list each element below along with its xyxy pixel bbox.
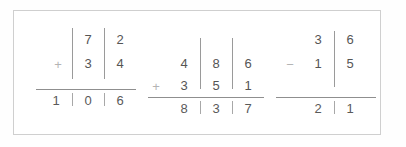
problem-1-addend-top-digit-1: 2 bbox=[113, 33, 127, 46]
place-value-separator-hundreds-tens bbox=[72, 28, 73, 79]
problem-1: 7 2 + 3 4 1 0 6 bbox=[28, 11, 144, 136]
problem-1-result-tick-0 bbox=[72, 93, 73, 106]
problem-1-operator-plus: + bbox=[52, 58, 64, 71]
problem-2-operator-plus: + bbox=[150, 80, 162, 93]
place-value-separator-tens-ones bbox=[104, 28, 105, 79]
problem-1-result-digit-2: 6 bbox=[113, 94, 127, 107]
problem-1-addend-bottom-digit-0: 3 bbox=[81, 57, 95, 70]
problem-2-addend-bottom-digit-1: 5 bbox=[209, 79, 223, 92]
place-value-separator-tens-ones bbox=[232, 38, 233, 89]
problem-2-addend-bottom-digit-2: 1 bbox=[241, 79, 255, 92]
problem-3-minuend-digit-1: 6 bbox=[343, 33, 357, 46]
problem-3-operator-minus: − bbox=[284, 58, 296, 71]
problem-3-subtrahend-digit-0: 1 bbox=[311, 57, 325, 70]
problem-3-subtrahend-digit-1: 5 bbox=[343, 57, 357, 70]
problem-3-answer-rule bbox=[276, 97, 376, 98]
problem-2-addend-top-digit-1: 8 bbox=[209, 57, 223, 70]
problem-1-addend-top-digit-0: 7 bbox=[81, 33, 95, 46]
problem-2-addend-bottom-digit-0: 3 bbox=[177, 79, 191, 92]
worksheet-canvas: 7 2 + 3 4 1 0 6 4 8 6 bbox=[0, 0, 406, 147]
problem-3-result-digit-0: 2 bbox=[311, 102, 325, 115]
problem-3-result-tick-0 bbox=[334, 101, 335, 114]
problem-2-result-tick-1 bbox=[232, 101, 233, 114]
place-value-separator-tens-ones bbox=[334, 31, 335, 87]
problem-2-result-digit-1: 3 bbox=[209, 102, 223, 115]
problem-3-result-digit-1: 1 bbox=[343, 102, 357, 115]
problem-2: 4 8 6 + 3 5 1 8 3 7 bbox=[148, 11, 272, 136]
problem-2-result-digit-0: 8 bbox=[177, 102, 191, 115]
problem-1-answer-rule bbox=[36, 89, 136, 90]
problem-1-addend-bottom-digit-1: 4 bbox=[113, 57, 127, 70]
problem-1-result-tick-1 bbox=[104, 93, 105, 106]
problem-2-result-digit-2: 7 bbox=[241, 102, 255, 115]
problem-2-addend-top-digit-0: 4 bbox=[177, 57, 191, 70]
problem-2-addend-top-digit-2: 6 bbox=[241, 57, 255, 70]
place-value-separator-hundreds-tens bbox=[200, 38, 201, 89]
problem-3: 3 6 − 1 5 2 1 bbox=[276, 11, 386, 136]
worksheet-frame: 7 2 + 3 4 1 0 6 4 8 6 bbox=[13, 10, 381, 135]
problem-2-answer-rule bbox=[148, 97, 264, 98]
problem-2-result-tick-0 bbox=[200, 101, 201, 114]
problem-3-minuend-digit-0: 3 bbox=[311, 33, 325, 46]
problem-1-result-digit-0: 1 bbox=[49, 94, 63, 107]
problem-1-result-digit-1: 0 bbox=[81, 94, 95, 107]
